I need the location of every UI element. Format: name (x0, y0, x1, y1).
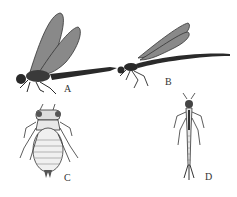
figure-d-nymph (174, 93, 204, 180)
label-c: C (64, 172, 71, 183)
head (185, 100, 193, 108)
label-a: A (64, 83, 71, 94)
insect-illustration (0, 0, 237, 197)
thorax-stripe (188, 110, 190, 130)
antennae (40, 104, 55, 110)
label-d: D (205, 171, 212, 182)
abdomen (50, 67, 117, 80)
figure-b-damselfly (118, 23, 231, 88)
tail (44, 170, 52, 178)
legs (20, 80, 56, 94)
eye (55, 111, 61, 117)
caudal-gills (184, 165, 194, 180)
figure-a-dragonfly (16, 13, 117, 94)
eye (36, 111, 42, 117)
figure-c-nymph (20, 104, 78, 178)
label-b: B (165, 76, 172, 87)
antennae (183, 93, 195, 99)
thorax (124, 63, 138, 71)
head (16, 74, 26, 84)
thorax (26, 70, 50, 82)
legs (120, 70, 148, 88)
